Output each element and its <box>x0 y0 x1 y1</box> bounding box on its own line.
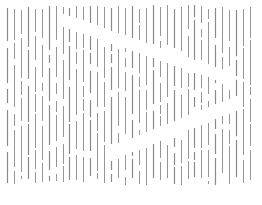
vertical-line-pattern <box>0 0 262 205</box>
